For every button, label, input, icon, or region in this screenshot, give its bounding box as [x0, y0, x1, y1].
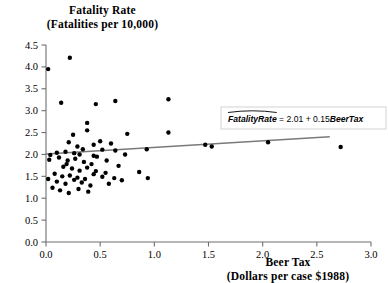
data-point	[68, 55, 72, 59]
data-point	[120, 178, 124, 182]
data-point	[63, 150, 67, 154]
data-point	[103, 171, 107, 175]
data-point	[125, 132, 129, 136]
regression-equation-annotation: FatalityRate = 2.01 + 0.15BeerTax	[221, 107, 386, 129]
data-point	[338, 145, 342, 149]
data-point	[58, 188, 62, 192]
data-point	[80, 180, 84, 184]
data-point	[137, 170, 141, 174]
data-point	[67, 140, 71, 144]
data-point	[75, 144, 79, 148]
data-point	[100, 175, 104, 179]
data-point	[210, 144, 214, 148]
x-axis-ticks: 0.00.51.01.52.02.53.0	[39, 242, 377, 260]
x-tick-label: 2.5	[310, 249, 323, 260]
data-points	[46, 55, 343, 195]
data-point	[203, 143, 207, 147]
equation-hat-icon	[228, 111, 277, 113]
y-tick-label: 2.0	[25, 149, 38, 160]
data-point	[60, 174, 64, 178]
y-axis-ticks: 0.00.51.01.52.02.53.03.54.04.5	[25, 40, 46, 248]
data-point	[86, 189, 90, 193]
data-point	[46, 67, 50, 71]
data-point	[145, 147, 149, 151]
data-point	[52, 172, 56, 176]
data-point	[166, 97, 170, 101]
scatter-plot-figure: Fatality Rate (Fatalities per 10,000) Be…	[0, 0, 388, 283]
data-point	[146, 176, 150, 180]
data-point	[83, 177, 87, 181]
data-point	[47, 157, 51, 161]
data-point	[116, 164, 120, 168]
data-point	[81, 147, 85, 151]
data-point	[85, 121, 89, 125]
y-tick-label: 4.5	[25, 40, 38, 51]
data-point	[46, 177, 50, 181]
data-point	[64, 162, 68, 166]
data-point	[109, 141, 113, 145]
data-point	[59, 101, 63, 105]
data-point	[91, 143, 95, 147]
data-point	[89, 162, 93, 166]
y-tick-label: 1.0	[25, 193, 38, 204]
y-tick-label: 3.5	[25, 83, 38, 94]
data-point	[85, 128, 89, 132]
y-tick-label: 0.0	[25, 237, 38, 248]
x-tick-label: 3.0	[364, 249, 377, 260]
y-tick-label: 0.5	[25, 215, 38, 226]
regression-line-segment	[46, 137, 330, 154]
data-point	[123, 152, 127, 156]
data-point	[113, 148, 117, 152]
regression-line	[46, 137, 330, 154]
data-point	[88, 183, 92, 187]
data-point	[68, 173, 72, 177]
data-point	[72, 151, 76, 155]
data-point	[72, 178, 76, 182]
x-tick-label: 1.0	[148, 249, 161, 260]
y-tick-label: 3.0	[25, 105, 38, 116]
data-point	[98, 139, 102, 143]
data-point	[85, 165, 89, 169]
data-point	[71, 133, 75, 137]
data-point	[50, 186, 54, 190]
data-point	[91, 172, 95, 176]
data-point	[55, 179, 59, 183]
y-tick-label: 1.5	[25, 171, 38, 182]
data-point	[100, 147, 104, 151]
data-point	[266, 140, 270, 144]
y-tick-label: 4.0	[25, 61, 38, 72]
data-point	[104, 158, 108, 162]
data-point	[67, 191, 71, 195]
y-tick-label: 2.5	[25, 127, 38, 138]
data-point	[73, 157, 77, 161]
data-point	[82, 160, 86, 164]
data-point	[48, 153, 52, 157]
data-point	[77, 152, 81, 156]
data-point	[107, 182, 111, 186]
data-point	[55, 150, 59, 154]
x-tick-label: 0.5	[94, 249, 107, 260]
data-point	[57, 155, 61, 159]
data-point	[112, 176, 116, 180]
regression-equation-text: FatalityRate = 2.01 + 0.15BeerTax	[228, 114, 365, 124]
data-point	[94, 102, 98, 106]
data-point	[63, 182, 67, 186]
x-tick-label: 2.0	[256, 249, 269, 260]
x-tick-label: 1.5	[202, 249, 215, 260]
data-point	[166, 130, 170, 134]
x-tick-label: 0.0	[39, 249, 52, 260]
data-point	[76, 187, 80, 191]
data-point	[77, 168, 81, 172]
data-point	[113, 99, 117, 103]
data-point	[70, 166, 74, 170]
data-point	[95, 154, 99, 158]
plot-area: 0.00.51.01.52.02.53.03.54.04.5 0.00.51.0…	[0, 0, 388, 283]
